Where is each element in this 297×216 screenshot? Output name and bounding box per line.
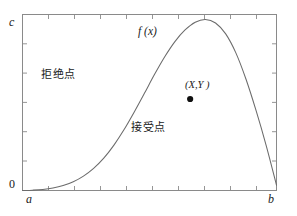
right-axis-ticks — [272, 44, 277, 161]
left-axis-ticks — [23, 44, 28, 161]
x-axis-left-label: a — [26, 193, 32, 205]
y-axis-top-label: c — [9, 16, 14, 28]
plot-frame — [23, 15, 277, 191]
x-axis-right-label: b — [268, 193, 274, 205]
acceptance-region-label: 接受点 — [131, 122, 166, 133]
acceptance-rejection-figure: c 0 a b f (x) 拒绝点 接受点 (X,Y ) — [0, 0, 297, 216]
bottom-axis-ticks — [49, 186, 257, 191]
top-axis-ticks — [49, 15, 257, 20]
curve-name-label: f (x) — [138, 26, 157, 38]
rejection-region-label: 拒绝点 — [41, 69, 76, 80]
sample-point-label: (X,Y ) — [185, 80, 210, 91]
density-curve — [23, 19, 277, 190]
sample-point-marker — [187, 96, 193, 102]
y-axis-bottom-label: 0 — [9, 178, 15, 190]
